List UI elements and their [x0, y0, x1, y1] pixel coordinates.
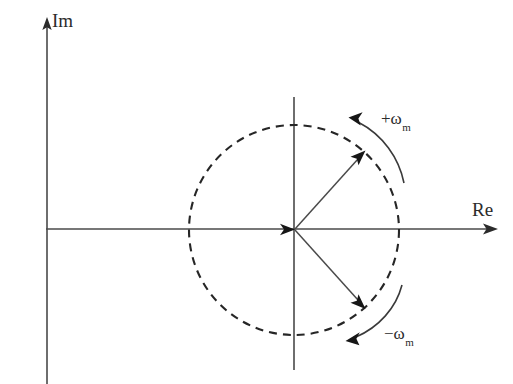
positive-rotation-sign: +: [381, 109, 391, 128]
positive-frequency-phasor: [295, 151, 366, 230]
real-axis: [46, 223, 498, 234]
imaginary-axis: [42, 17, 51, 384]
imaginary-axis-label: Im: [52, 11, 73, 30]
phasor-diagram-figure: Im Re +ωm −ωm: [0, 0, 513, 384]
negative-rotation-sign: −: [384, 324, 394, 343]
negative-phasor-arrowhead-icon: [351, 294, 366, 309]
negative-rotation-symbol: ω: [394, 324, 405, 343]
phasor-diagram-canvas: [0, 0, 513, 384]
real-axis-label: Re: [472, 200, 493, 219]
positive-rotation-arc-path: [358, 122, 404, 183]
negative-rotation-subscript: m: [405, 336, 414, 348]
positive-rotation-label: +ωm: [381, 110, 410, 130]
negative-rotation-arrowhead-icon: [346, 332, 360, 345]
negative-rotation-label: −ωm: [384, 325, 413, 345]
positive-rotation-subscript: m: [402, 121, 411, 133]
positive-rotation-symbol: ω: [391, 109, 402, 128]
negative-phasor-shaft: [295, 230, 358, 300]
positive-phasor-arrowhead-icon: [351, 151, 366, 166]
negative-frequency-phasor: [295, 230, 366, 309]
positive-phasor-shaft: [295, 159, 358, 229]
